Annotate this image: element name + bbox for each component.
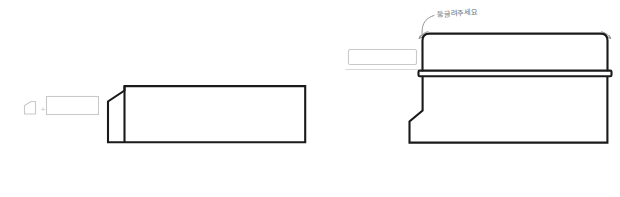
right-upper-body bbox=[423, 34, 608, 72]
notched-profile-icon bbox=[25, 102, 36, 115]
divider-band bbox=[419, 71, 612, 77]
left-ghost-block bbox=[47, 97, 99, 115]
technical-drawing-surface: + 둥글려주세요 bbox=[0, 0, 620, 197]
right-ghost-block bbox=[346, 50, 420, 70]
right-view-group: 둥글려주세요 bbox=[346, 7, 612, 142]
left-view-operator: + bbox=[41, 105, 46, 112]
left-view-group: + bbox=[25, 86, 306, 142]
left-body-outline bbox=[108, 86, 305, 142]
round-corners-note: 둥글려주세요 bbox=[437, 7, 479, 19]
drawing-canvas: + 둥글려주세요 bbox=[0, 0, 620, 197]
right-lower-body bbox=[410, 76, 608, 142]
